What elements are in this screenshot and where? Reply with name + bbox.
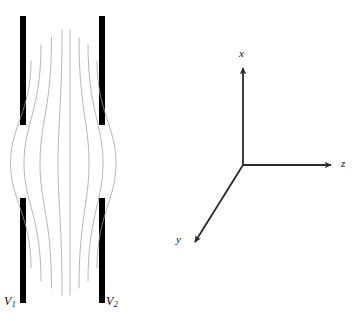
right-plate-voltage-subscript: 2 [113, 300, 118, 309]
capacitor-plates [20, 16, 105, 303]
y-axis-label: y [176, 233, 181, 245]
x-axis-label: x [239, 47, 244, 59]
field-line-2 [24, 45, 41, 281]
y-axis-line [195, 165, 243, 242]
field-line-6 [79, 38, 89, 288]
left-plate-voltage-subscript: 1 [11, 300, 16, 309]
field-line-4 [58, 30, 62, 295]
field-line-8 [97, 61, 116, 268]
field-line-3 [40, 38, 52, 288]
figure-canvas [0, 0, 358, 321]
physics-figure: V1 V2 x z y [0, 0, 358, 321]
lower-right-plate [99, 198, 105, 303]
z-axis-label: z [341, 157, 345, 169]
left-plate-voltage-label: V1 [4, 294, 16, 309]
lower-left-plate [20, 198, 26, 303]
right-plate-voltage-label: V2 [106, 294, 118, 309]
coordinate-axes [195, 68, 331, 242]
upper-left-plate [20, 16, 26, 125]
